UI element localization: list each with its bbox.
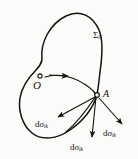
point-marker-a xyxy=(95,93,100,98)
vector-dsigma-left xyxy=(58,97,95,117)
figure-canvas xyxy=(0,0,138,159)
vector-dsigma-right xyxy=(99,98,122,124)
connector-o-to-a xyxy=(45,75,96,95)
point-marker-o xyxy=(38,74,42,78)
geometry-figure: Σ9 O A dσik dσik dσik xyxy=(0,0,138,159)
surface-trace-curve xyxy=(66,96,96,132)
